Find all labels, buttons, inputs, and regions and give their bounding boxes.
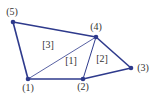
node-3 [129, 66, 134, 71]
edge-2-4 [83, 37, 96, 79]
edge-5-4 [13, 22, 96, 37]
node-label-3: (3) [137, 62, 149, 74]
node-4 [94, 35, 99, 40]
node-label-4: (4) [90, 21, 102, 33]
element-label-2: [2] [96, 53, 108, 64]
mesh-diagram: (1)(2)(3)(4)(5)[1][2][3] [0, 0, 157, 97]
node-label-2: (2) [77, 81, 89, 93]
node-label-5: (5) [6, 6, 18, 18]
edge-5-1 [13, 22, 28, 79]
node-label-1: (1) [22, 82, 34, 94]
edge-2-3 [83, 68, 131, 79]
mesh-edges [13, 22, 131, 79]
node-5 [11, 20, 16, 25]
node-1 [26, 77, 31, 82]
element-label-1: [1] [65, 55, 77, 66]
element-label-3: [3] [42, 39, 54, 50]
edge-1-4 [28, 37, 96, 79]
